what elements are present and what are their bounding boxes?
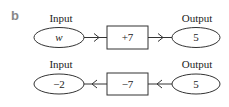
input-label: Input (49, 12, 72, 24)
panel-label: b (11, 8, 19, 23)
output-value: 5 (193, 31, 199, 43)
operation-label: +7 (122, 31, 134, 43)
input-label: Input (49, 58, 72, 70)
function-machine-diagram: b Input w +7 Output 5 Input −2 −7 Output… (0, 0, 229, 107)
input-value: −2 (53, 78, 65, 90)
output-value: 5 (193, 78, 199, 90)
output-label: Output (182, 58, 213, 70)
output-label: Output (182, 12, 213, 24)
operation-label: −7 (122, 78, 134, 90)
input-value: w (55, 31, 63, 43)
reverse-row: Input −2 −7 Output 5 (34, 58, 220, 95)
forward-row: Input w +7 Output 5 (34, 12, 220, 49)
